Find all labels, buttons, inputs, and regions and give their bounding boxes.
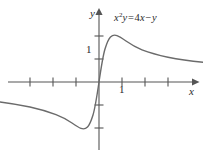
x-axis-unit-label: 1 (119, 84, 125, 95)
equation-rhs-var2: y (152, 12, 157, 23)
implicit-curve-figure: y x 1 1 x2y=4x−y (0, 0, 203, 156)
x-axis-label: x (189, 86, 194, 97)
equation-minus: − (145, 12, 152, 23)
plot-canvas (0, 0, 203, 156)
equation-annotation: x2y=4x−y (114, 13, 157, 24)
y-axis-arrow-icon (95, 8, 102, 15)
y-axis-unit-label: 1 (86, 44, 92, 55)
equation-equals: = (127, 12, 134, 23)
y-axis-label: y (90, 8, 95, 19)
